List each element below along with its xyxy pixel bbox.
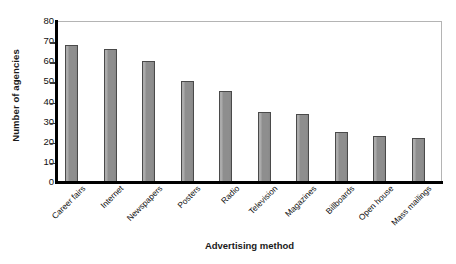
bar xyxy=(373,136,386,182)
plot-area xyxy=(57,21,442,182)
y-tick-label: 30 xyxy=(28,117,54,127)
bar xyxy=(412,138,425,182)
bar xyxy=(335,132,348,182)
x-tick-label: Magazines xyxy=(283,184,318,219)
bar xyxy=(142,61,155,182)
bar xyxy=(104,49,117,182)
bar xyxy=(258,112,271,182)
y-axis-tick-labels: 80706050403020100 xyxy=(28,14,54,186)
y-axis-title: Number of agencies xyxy=(0,0,30,190)
x-tick-label: Career fairs xyxy=(50,184,87,221)
y-tick-label: 70 xyxy=(28,36,54,46)
x-tick-label: Newspapers xyxy=(125,184,164,223)
y-axis-title-text: Number of agencies xyxy=(10,49,21,142)
x-tick-label: Radio xyxy=(219,184,241,206)
y-tick-label: 60 xyxy=(28,56,54,66)
y-tick-label: 50 xyxy=(28,76,54,86)
bar xyxy=(219,91,232,182)
y-tick-label: 80 xyxy=(28,16,54,26)
x-tick-label: Internet xyxy=(99,184,125,210)
x-axis-tick-labels: Career fairsInternetNewspapersPostersRad… xyxy=(57,184,442,240)
x-tick-label: Billboards xyxy=(324,184,356,216)
x-tick-label: Mass mailings xyxy=(390,184,434,228)
x-tick-label: Television xyxy=(247,184,279,216)
y-tick-label: 0 xyxy=(28,177,54,187)
bar-chart-figure: Number of agencies 80706050403020100 Car… xyxy=(0,0,456,264)
y-axis-line xyxy=(55,20,58,183)
y-tick-label: 20 xyxy=(28,137,54,147)
x-axis-title: Advertising method xyxy=(57,240,442,251)
x-tick-label: Open house xyxy=(357,184,395,222)
x-tick-label: Posters xyxy=(176,184,202,210)
y-tick-label: 10 xyxy=(28,157,54,167)
bar xyxy=(65,45,78,182)
bar xyxy=(181,81,194,182)
bar xyxy=(296,114,309,182)
y-tick-label: 40 xyxy=(28,97,54,107)
